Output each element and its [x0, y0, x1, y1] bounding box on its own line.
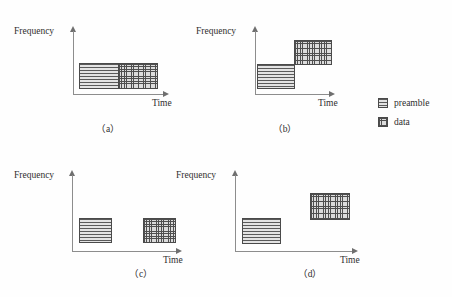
figure-canvas: Frequency Time （a） Frequency Time （b） Fr… — [0, 0, 452, 297]
panel-a-caption: （a） — [78, 121, 138, 135]
panel-b: Frequency Time （b） — [190, 0, 350, 148]
panel-d-y-axis-label: Frequency — [176, 170, 216, 180]
panel-d-x-axis-arrow — [352, 248, 358, 254]
panel-c-data-block — [143, 218, 176, 243]
preamble-swatch-icon — [378, 98, 388, 108]
panel-a-x-axis — [73, 94, 164, 95]
panel-b-x-axis — [255, 94, 330, 95]
panel-d-y-axis — [235, 175, 236, 251]
data-swatch-icon — [378, 117, 388, 127]
panel-b-y-axis — [255, 31, 256, 94]
panel-b-x-axis-label: Time — [318, 98, 338, 108]
panel-b-y-axis-label: Frequency — [196, 26, 236, 36]
panel-c-caption: （c） — [111, 266, 171, 280]
legend: preamble data — [378, 96, 452, 136]
panel-a-y-axis — [73, 31, 74, 94]
panel-a-x-axis-label: Time — [152, 98, 172, 108]
panel-c-y-axis-label: Frequency — [14, 170, 54, 180]
panel-b-caption: （b） — [255, 121, 315, 135]
panel-c-x-axis-label: Time — [163, 255, 183, 265]
panel-d: Frequency Time （d） — [215, 150, 395, 297]
panel-a-preamble-block — [79, 63, 119, 89]
panel-d-x-axis — [235, 251, 353, 252]
panel-c-x-axis-arrow — [176, 248, 182, 254]
panel-d-data-block — [310, 193, 350, 220]
panel-c-preamble-block — [79, 218, 112, 243]
panel-b-x-axis-arrow — [329, 91, 335, 97]
panel-a-y-axis-label: Frequency — [14, 26, 54, 36]
panel-c-y-axis — [72, 175, 73, 251]
legend-item-data: data — [378, 117, 410, 127]
legend-label-preamble: preamble — [394, 98, 429, 108]
legend-label-data: data — [394, 117, 410, 127]
panel-b-data-block — [294, 40, 332, 65]
panel-b-preamble-block — [257, 64, 295, 89]
panel-a-data-block — [118, 63, 158, 89]
panel-d-preamble-block — [242, 218, 281, 244]
panel-d-x-axis-label: Time — [340, 255, 360, 265]
legend-item-preamble: preamble — [378, 98, 429, 108]
panel-c-x-axis — [72, 251, 177, 252]
panel-a-x-axis-arrow — [163, 91, 169, 97]
panel-d-caption: （d） — [280, 266, 340, 280]
